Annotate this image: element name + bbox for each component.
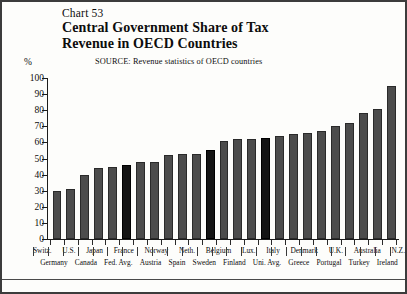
bar-slot [175, 78, 189, 239]
x-axis-label: Ireland [377, 258, 398, 268]
x-axis-tick [92, 240, 93, 245]
x-axis-tick [230, 240, 231, 245]
x-label-separator [256, 247, 257, 256]
x-axis-label: Norway [144, 246, 168, 256]
y-axis-tick [42, 94, 47, 95]
bar-slot [259, 78, 273, 239]
x-axis-label: Uni. Avg. [253, 258, 281, 268]
bar [122, 165, 131, 239]
bar-slot [78, 78, 92, 239]
x-label-separator [48, 247, 49, 256]
bar [108, 167, 117, 239]
x-label-separator [93, 247, 94, 256]
x-axis-tick [119, 240, 120, 245]
x-axis-tick [299, 240, 300, 245]
y-axis-tick-label: 30 [22, 187, 44, 196]
bar [192, 154, 201, 239]
x-axis-label: Spain [169, 258, 186, 268]
x-label-separator [301, 247, 302, 256]
bar [345, 123, 354, 239]
bar-slot [231, 78, 245, 239]
bar [178, 154, 187, 239]
x-axis-label: U.S. [62, 246, 75, 256]
bar [331, 126, 340, 239]
bar-slot [217, 78, 231, 239]
x-label-separator [167, 247, 168, 256]
chart-page: Chart 53 Central Government Share of Tax… [0, 0, 407, 294]
bar [359, 113, 368, 239]
bar [275, 136, 284, 239]
x-label-separator [152, 247, 153, 256]
y-axis-tick-label: 40 [22, 171, 44, 180]
bar-slot [120, 78, 134, 239]
bar-slot [147, 78, 161, 239]
bar-slot [50, 78, 64, 239]
x-axis-tick [244, 240, 245, 245]
y-axis-line [47, 78, 48, 240]
x-axis-label: Switz. [33, 246, 52, 256]
bar [261, 138, 270, 239]
x-label-separator [286, 247, 287, 256]
x-label-separator [182, 247, 183, 256]
x-label-separator [197, 247, 198, 256]
x-axis-tick [382, 240, 383, 245]
x-axis-label: Australia [354, 246, 381, 256]
x-axis-tick [147, 240, 148, 245]
x-axis-label-row-top: Switz..U.S..Japan.France.Norway.Neth..Be… [33, 246, 405, 256]
y-axis-tick [42, 126, 47, 127]
bar-slot [134, 78, 148, 239]
bar [136, 162, 145, 239]
y-axis-tick-labels: 0102030405060708090100 [20, 74, 44, 246]
x-label-separator [360, 247, 361, 256]
x-axis-tick [341, 240, 342, 245]
bar-slot [273, 78, 287, 239]
bar-slot [161, 78, 175, 239]
bar-slot [301, 78, 315, 239]
x-label-separator [331, 247, 332, 256]
x-label-separator [405, 247, 406, 256]
bar [150, 162, 159, 239]
bar [373, 109, 382, 239]
page-border-top [0, 0, 407, 2]
x-label-separator [241, 247, 242, 256]
bar [387, 86, 396, 239]
x-axis-label-row-bottom: .Germany.Canada.Fed. Avg..Austria.Spain.… [33, 258, 405, 268]
x-axis-tick [258, 240, 259, 245]
bar [66, 189, 75, 239]
x-axis-label: Finland [223, 258, 246, 268]
page-title-line-2: Revenue in OECD Countries [62, 36, 399, 52]
x-axis-label: N.Z. [391, 246, 405, 256]
x-axis-tick [216, 240, 217, 245]
x-label-separator [316, 247, 317, 256]
bar [164, 155, 173, 239]
x-label-separator [33, 247, 34, 256]
x-label-separator [212, 247, 213, 256]
y-axis-tick [42, 175, 47, 176]
bar-slot [92, 78, 106, 239]
y-axis-tick [42, 142, 47, 143]
x-axis-tick [327, 240, 328, 245]
bar [220, 141, 229, 239]
x-label-separator [122, 247, 123, 256]
y-axis-unit-label: % [24, 57, 32, 67]
x-axis-label: Fed. Avg. [104, 258, 132, 268]
x-axis-tick [161, 240, 162, 245]
bar-slot [203, 78, 217, 239]
page-footer-rule [2, 279, 405, 280]
x-axis-tick [285, 240, 286, 245]
x-label-separator [226, 247, 227, 256]
plot-area [47, 78, 399, 240]
y-axis-tick-label: 90 [22, 90, 44, 99]
y-axis-tick-label: 10 [22, 219, 44, 228]
x-axis-label: Sweden [193, 258, 216, 268]
x-label-separator [375, 247, 376, 256]
x-axis-tick [396, 240, 397, 245]
y-axis-tick-label: 100 [22, 74, 44, 83]
y-axis-tick-label: 80 [22, 106, 44, 115]
x-axis-tick [188, 240, 189, 245]
chart-header: Chart 53 Central Government Share of Tax… [62, 6, 399, 52]
bar [233, 139, 242, 239]
x-axis-label: Germany [40, 258, 68, 268]
x-label-separator [345, 247, 346, 256]
chart-number: Chart 53 [62, 6, 399, 20]
